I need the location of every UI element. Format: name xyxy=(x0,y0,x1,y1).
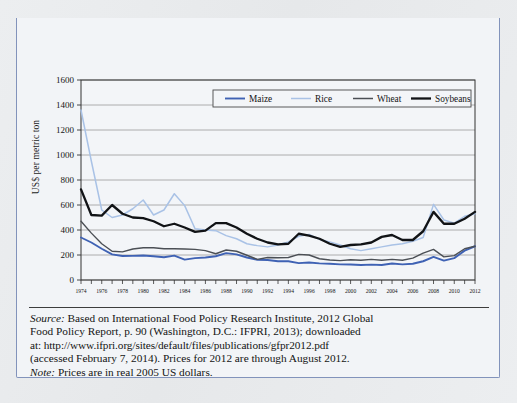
svg-text:2010: 2010 xyxy=(449,288,460,294)
svg-text:Rice: Rice xyxy=(315,94,332,104)
svg-text:2008: 2008 xyxy=(428,288,439,294)
svg-text:1984: 1984 xyxy=(179,288,190,294)
svg-text:1982: 1982 xyxy=(158,288,169,294)
svg-text:1200: 1200 xyxy=(56,125,75,135)
svg-text:2002: 2002 xyxy=(366,288,377,294)
svg-text:800: 800 xyxy=(61,175,75,185)
line-chart: 0200400600800100012001400160019741976197… xyxy=(17,40,501,306)
svg-text:200: 200 xyxy=(61,250,75,260)
svg-text:600: 600 xyxy=(61,200,75,210)
source-line-4: (accessed February 7, 2014). Prices for … xyxy=(30,352,488,365)
note-label: Note: xyxy=(30,366,55,378)
svg-text:1978: 1978 xyxy=(117,288,128,294)
note-line: Prices are in real 2005 US dollars. xyxy=(55,366,213,378)
svg-text:Maize: Maize xyxy=(249,94,272,104)
svg-text:400: 400 xyxy=(61,225,75,235)
note-divider xyxy=(29,307,489,308)
figure-page: FIGURE 9.3 World Prices for Agricultural… xyxy=(0,0,517,403)
svg-text:0: 0 xyxy=(70,275,75,285)
svg-text:1996: 1996 xyxy=(304,288,315,294)
source-line-1: Based on International Food Policy Resea… xyxy=(65,312,374,324)
svg-text:1994: 1994 xyxy=(283,288,294,294)
svg-text:1000: 1000 xyxy=(56,150,75,160)
svg-text:2004: 2004 xyxy=(386,288,397,294)
figure-body: US$ per metric ton 020040060080010001200… xyxy=(16,18,500,378)
svg-text:1976: 1976 xyxy=(96,288,107,294)
svg-text:1988: 1988 xyxy=(221,288,232,294)
svg-text:1998: 1998 xyxy=(324,288,335,294)
source-note: Source: Based on International Food Poli… xyxy=(30,312,488,379)
svg-text:2012: 2012 xyxy=(469,288,480,294)
svg-text:2000: 2000 xyxy=(345,288,356,294)
source-line-2: Food Policy Report, p. 90 (Washington, D… xyxy=(30,325,488,338)
svg-text:1986: 1986 xyxy=(200,288,211,294)
svg-text:2006: 2006 xyxy=(407,288,418,294)
svg-text:1990: 1990 xyxy=(241,288,252,294)
svg-text:1600: 1600 xyxy=(56,75,75,85)
source-label: Source: xyxy=(30,312,65,324)
svg-text:1980: 1980 xyxy=(138,288,149,294)
svg-text:Soybeans: Soybeans xyxy=(435,94,471,104)
svg-text:1400: 1400 xyxy=(56,100,75,110)
svg-text:Wheat: Wheat xyxy=(377,94,402,104)
svg-text:1992: 1992 xyxy=(262,288,273,294)
source-line-3: at: http://www.ifpri.org/sites/default/f… xyxy=(30,339,488,352)
svg-text:1974: 1974 xyxy=(75,288,86,294)
chart-container: US$ per metric ton 020040060080010001200… xyxy=(17,40,501,306)
